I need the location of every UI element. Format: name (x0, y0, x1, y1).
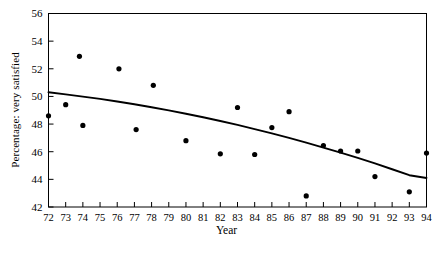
y-axis-label-text: Percentage: very satisfied (9, 52, 21, 168)
x-tick-label: 72 (43, 212, 54, 223)
data-point-group (46, 54, 429, 199)
data-point (252, 152, 257, 157)
x-tick-label: 84 (249, 212, 260, 223)
x-axis-tick-labels: 7273747576777879808182838485868788899091… (43, 212, 432, 223)
data-point (355, 148, 360, 153)
x-tick-label: 82 (215, 212, 226, 223)
y-tick-label: 48 (32, 118, 44, 130)
data-point (63, 102, 68, 107)
x-tick-label: 79 (164, 212, 175, 223)
y-tick-label: 46 (32, 146, 44, 158)
y-axis-tick-labels: 4244464850525456 (32, 7, 44, 213)
data-point (218, 151, 223, 156)
plot-frame (49, 14, 427, 208)
data-point (134, 127, 139, 132)
data-point (372, 174, 377, 179)
data-point (407, 189, 412, 194)
data-point (304, 193, 309, 198)
x-tick-label: 93 (404, 212, 415, 223)
x-axis-label-text: Year (208, 224, 237, 236)
y-tick-label: 56 (32, 7, 44, 19)
x-tick-label: 77 (129, 212, 140, 223)
x-axis-label: Year (0, 224, 445, 236)
data-point (235, 105, 240, 110)
x-tick-label: 83 (232, 212, 243, 223)
x-tick-label: 94 (421, 212, 432, 223)
y-tick-label: 54 (32, 35, 44, 47)
y-tick-label: 42 (32, 201, 43, 213)
x-tick-label: 80 (181, 212, 192, 223)
y-axis-label: Percentage: very satisfied (6, 13, 24, 207)
x-tick-label: 89 (335, 212, 346, 223)
data-point (269, 125, 274, 130)
y-tick-label: 44 (32, 173, 44, 185)
x-tick-label: 87 (301, 212, 312, 223)
x-tick-label: 85 (267, 212, 278, 223)
data-point (321, 143, 326, 148)
x-axis-tick-marks (66, 202, 410, 207)
x-tick-label: 92 (387, 212, 398, 223)
data-point (338, 148, 343, 153)
x-tick-label: 86 (284, 212, 295, 223)
x-tick-label: 75 (95, 212, 106, 223)
scatter-plot-figure: Percentage: very satisfied 4244464850525… (0, 0, 445, 253)
data-point (46, 113, 51, 118)
x-tick-label: 81 (198, 212, 209, 223)
x-tick-label: 91 (370, 212, 381, 223)
data-point (286, 109, 291, 114)
x-tick-label: 90 (353, 212, 364, 223)
x-tick-label: 73 (60, 212, 71, 223)
y-axis-tick-marks (49, 14, 54, 208)
plot-canvas: 4244464850525456 72737475767778798081828… (0, 0, 445, 253)
x-tick-label: 76 (112, 212, 123, 223)
data-point (183, 138, 188, 143)
data-point (424, 151, 429, 156)
y-tick-label: 50 (32, 90, 44, 102)
x-tick-label: 78 (146, 212, 157, 223)
x-tick-label: 74 (78, 212, 89, 223)
y-tick-label: 52 (32, 63, 43, 75)
data-point (77, 54, 82, 59)
data-point (80, 123, 85, 128)
x-tick-label: 88 (318, 212, 329, 223)
data-point (151, 83, 156, 88)
data-point (116, 66, 121, 71)
